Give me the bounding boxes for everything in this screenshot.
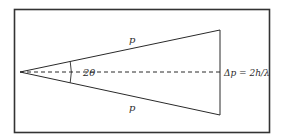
apex-angle-label: 2θ xyxy=(82,67,95,78)
base-label: Δp = 2h/λ xyxy=(223,68,270,78)
lower-side-label: p xyxy=(129,102,136,113)
lower-side-line xyxy=(20,72,220,115)
diagram-canvas: p p 2θ Δp = 2h/λ xyxy=(0,0,281,139)
triangle-diagram: p p 2θ Δp = 2h/λ xyxy=(0,0,281,139)
upper-side-label: p xyxy=(129,34,136,45)
upper-side-line xyxy=(20,30,220,72)
